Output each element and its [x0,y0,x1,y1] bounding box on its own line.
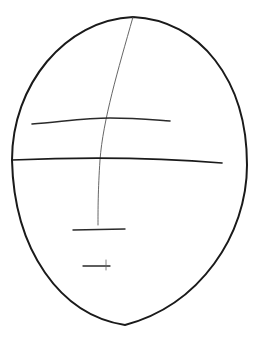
face-sketch [0,0,254,338]
paper-background [0,0,254,338]
nose-line [73,229,125,230]
